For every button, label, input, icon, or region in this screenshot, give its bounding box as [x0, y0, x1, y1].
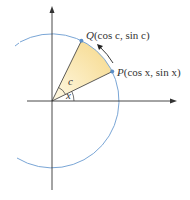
angle-x-arc: [72, 91, 74, 101]
y-axis-arrowhead: [50, 6, 55, 13]
label-angle-x: x: [65, 89, 71, 101]
label-q: Q(cos c, sin c): [86, 29, 150, 42]
label-angle-c: c: [68, 75, 73, 87]
unit-circle-dashed-start: [15, 43, 19, 46]
label-p: P(cos x, sin x): [116, 66, 181, 79]
unit-circle-diagram: Q(cos c, sin c) P(cos x, sin x) c x: [0, 0, 190, 200]
point-p: [110, 70, 114, 74]
point-q: [79, 39, 83, 43]
x-axis-arrowhead: [170, 99, 177, 104]
